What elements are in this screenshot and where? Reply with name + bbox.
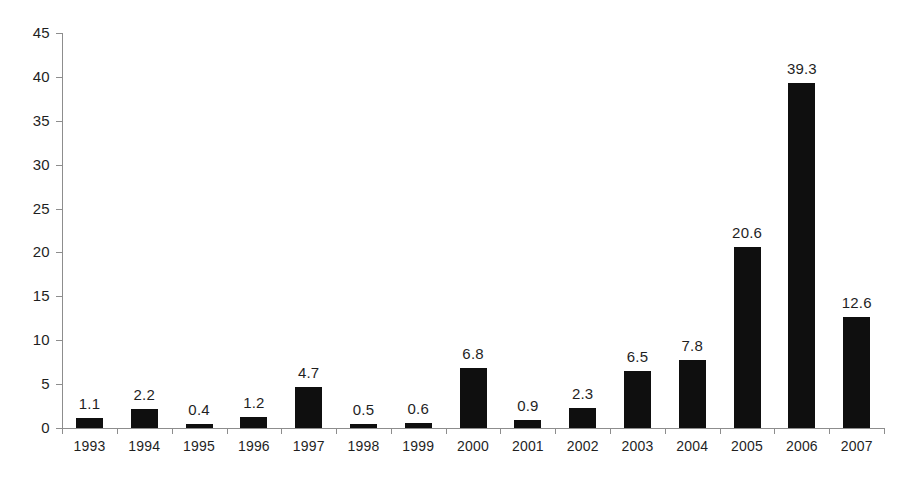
bar — [186, 424, 213, 428]
bar-value-label: 1.1 — [60, 396, 120, 412]
y-axis-tick-label-text: 30 — [4, 157, 50, 172]
x-axis-category-label: 1999 — [388, 438, 448, 454]
bar-value-label: 0.4 — [169, 402, 229, 418]
y-axis-tick-label-text: 35 — [4, 113, 50, 128]
y-axis-tick-label: 35 — [0, 113, 50, 128]
y-axis-tick-label-text: 40 — [4, 69, 50, 84]
bar — [569, 408, 596, 428]
x-axis-tick — [281, 428, 282, 434]
y-axis-tick — [56, 252, 63, 253]
y-axis-tick-label: 15 — [0, 288, 50, 303]
x-axis-tick — [62, 428, 63, 434]
x-axis-tick — [336, 428, 337, 434]
y-axis-tick-label: 40 — [0, 69, 50, 84]
bar-value-label: 0.6 — [388, 401, 448, 417]
y-axis-tick-label-text: 10 — [4, 332, 50, 347]
x-axis-category-label: 2007 — [827, 438, 887, 454]
bar — [350, 424, 377, 428]
x-axis-tick — [555, 428, 556, 434]
x-axis-tick — [117, 428, 118, 434]
x-axis-tick — [720, 428, 721, 434]
bar — [131, 409, 158, 428]
bar-value-label: 20.6 — [717, 225, 777, 241]
bar — [460, 368, 487, 428]
y-axis-tick-label: 30 — [0, 157, 50, 172]
bar-value-label: 12.6 — [827, 295, 887, 311]
bar — [679, 360, 706, 428]
bar — [734, 247, 761, 428]
y-axis-tick-label-text: 15 — [4, 288, 50, 303]
x-axis-tick — [227, 428, 228, 434]
bar — [76, 418, 103, 428]
x-axis-category-label: 2001 — [498, 438, 558, 454]
y-axis-tick-label: 45 — [0, 25, 50, 40]
y-axis-tick — [56, 296, 63, 297]
x-axis-category-label: 1995 — [169, 438, 229, 454]
x-axis-category-label: 1994 — [114, 438, 174, 454]
bar — [295, 387, 322, 428]
bar-value-label: 6.8 — [443, 346, 503, 362]
y-axis-tick-label: 25 — [0, 201, 50, 216]
bar-value-label: 2.2 — [114, 387, 174, 403]
y-axis-tick-label-text: 45 — [4, 25, 50, 40]
bar-value-label: 0.5 — [334, 402, 394, 418]
y-axis-tick-label-text: 25 — [4, 201, 50, 216]
bar-chart: 051015202530354045 1.12.20.41.24.70.50.6… — [0, 0, 906, 477]
bar — [624, 371, 651, 428]
x-axis-tick — [610, 428, 611, 434]
y-axis-tick — [56, 340, 63, 341]
x-axis-category-label: 2006 — [772, 438, 832, 454]
x-axis-category-label: 1997 — [279, 438, 339, 454]
x-axis-category-label: 2000 — [443, 438, 503, 454]
y-axis-line — [62, 33, 63, 429]
y-axis-tick-label-text: 0 — [4, 420, 50, 435]
x-axis-category-label: 2004 — [662, 438, 722, 454]
y-axis-tick-label: 5 — [0, 376, 50, 391]
x-axis-tick — [172, 428, 173, 434]
bar — [514, 420, 541, 428]
bar-value-label: 4.7 — [279, 365, 339, 381]
x-axis-category-label: 2005 — [717, 438, 777, 454]
x-axis-category-label: 1998 — [334, 438, 394, 454]
y-axis-tick-label-text: 5 — [4, 376, 50, 391]
x-axis-tick — [774, 428, 775, 434]
bar-value-label: 0.9 — [498, 398, 558, 414]
y-axis-tick — [56, 209, 63, 210]
x-axis-category-label: 2003 — [608, 438, 668, 454]
y-axis-tick — [56, 121, 63, 122]
bar-value-label: 2.3 — [553, 386, 613, 402]
bar — [843, 317, 870, 428]
x-axis-category-label: 1996 — [224, 438, 284, 454]
bar-value-label: 39.3 — [772, 61, 832, 77]
y-axis-tick-label: 10 — [0, 332, 50, 347]
x-axis-tick — [500, 428, 501, 434]
bar-value-label: 1.2 — [224, 395, 284, 411]
x-axis-line — [62, 428, 884, 429]
bar — [240, 417, 267, 428]
y-axis-tick — [56, 165, 63, 166]
y-axis-tick — [56, 77, 63, 78]
y-axis-tick-label: 0 — [0, 420, 50, 435]
bar-value-label: 6.5 — [608, 349, 668, 365]
x-axis-tick — [665, 428, 666, 434]
y-axis-tick — [56, 384, 63, 385]
x-axis-tick — [446, 428, 447, 434]
x-axis-category-label: 2002 — [553, 438, 613, 454]
bar — [405, 423, 432, 428]
bar — [788, 83, 815, 428]
y-axis-tick — [56, 33, 63, 34]
x-axis-tick — [829, 428, 830, 434]
x-axis-tick — [391, 428, 392, 434]
x-axis-tick — [884, 428, 885, 434]
x-axis-category-label: 1993 — [60, 438, 120, 454]
y-axis-tick-label-text: 20 — [4, 244, 50, 259]
y-axis-tick-label: 20 — [0, 244, 50, 259]
bar-value-label: 7.8 — [662, 338, 722, 354]
